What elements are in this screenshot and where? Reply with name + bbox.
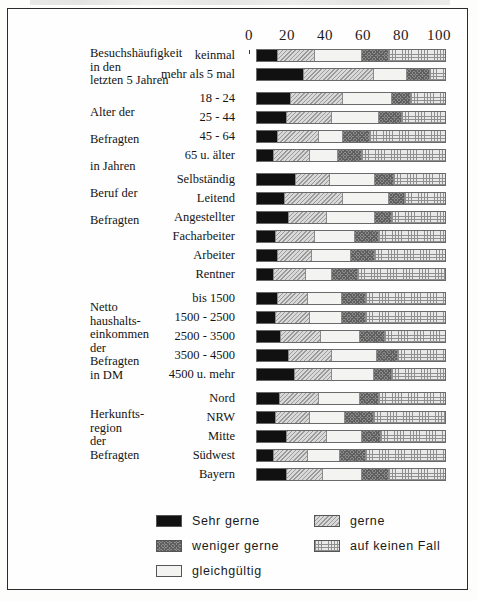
bar-segment-gleichgueltig — [315, 50, 362, 61]
bar-segment-gleichgueltig — [310, 150, 338, 161]
bar-segment-gleichgueltig — [308, 293, 342, 304]
bar-segment-weniger-gerne — [332, 269, 358, 280]
category-label: 2500 - 3500 — [175, 329, 235, 344]
bar-segment-gerne — [287, 469, 323, 480]
bar-segment-auf-keinen-fall — [389, 469, 445, 480]
bar-segment-auf-keinen-fall — [389, 50, 445, 61]
bar-segment-gleichgueltig — [308, 450, 340, 461]
legend-swatch-auf-keinen-fall — [314, 540, 340, 552]
bar-row: Angestellter — [8, 209, 467, 227]
bar-segment-gleichgueltig — [343, 193, 388, 204]
category-label: Bayern — [199, 467, 235, 482]
bar-segment-gleichgueltig — [343, 93, 392, 104]
stacked-bar — [256, 111, 446, 124]
stacked-bar — [256, 449, 446, 462]
category-label: 65 u. älter — [185, 148, 235, 163]
stacked-bar — [256, 230, 446, 243]
bar-row: 65 u. älter — [8, 147, 467, 165]
bar-segment-sehr-gerne — [257, 112, 287, 123]
legend-item-auf-keinen-fall[interactable]: auf keinen Fall — [314, 539, 440, 553]
axis-tick-label: 40 — [317, 27, 333, 44]
stacked-bar — [256, 268, 446, 281]
bar-segment-auf-keinen-fall — [366, 450, 445, 461]
bar-segment-sehr-gerne — [257, 293, 278, 304]
bar-segment-gleichgueltig — [312, 250, 351, 261]
stacked-bar — [256, 192, 446, 205]
bar-segment-gerne — [274, 450, 308, 461]
bar-segment-weniger-gerne — [389, 193, 406, 204]
legend-item-weniger-gerne[interactable]: weniger gerne — [156, 539, 279, 553]
bar-segment-gleichgueltig — [332, 112, 379, 123]
bar-segment-gerne — [276, 312, 310, 323]
category-label: 3500 - 4500 — [175, 348, 235, 363]
bar-segment-auf-keinen-fall — [379, 393, 445, 404]
bar-segment-auf-keinen-fall — [405, 193, 444, 204]
axis-tick-label: 80 — [393, 27, 409, 44]
bar-row: Facharbeiter — [8, 228, 467, 246]
category-label: Angestellter — [174, 210, 235, 225]
category-label: 45 - 64 — [200, 129, 235, 144]
stacked-bar — [256, 311, 446, 324]
bar-row: Nord — [8, 390, 467, 408]
bar-segment-gerne — [276, 412, 310, 423]
stacked-bar — [256, 130, 446, 143]
category-label: mehr als 5 mal — [161, 67, 235, 82]
legend-label: gleichgültig — [192, 564, 262, 578]
bar-segment-gerne — [295, 369, 333, 380]
legend-item-gerne[interactable]: gerne — [314, 514, 385, 528]
bar-segment-weniger-gerne — [351, 250, 375, 261]
bar-row: NRW — [8, 409, 467, 427]
bar-segment-gleichgueltig — [374, 69, 408, 80]
bar-segment-auf-keinen-fall — [366, 312, 445, 323]
bar-segment-weniger-gerne — [362, 469, 388, 480]
axis-tick-label: 0 — [245, 27, 253, 44]
bar-row: Bayern — [8, 466, 467, 484]
bar-segment-weniger-gerne — [379, 112, 402, 123]
stacked-bar — [256, 468, 446, 481]
bar-row: keinmal — [8, 47, 467, 65]
stacked-bar — [256, 292, 446, 305]
category-label: Nord — [209, 391, 235, 406]
bar-row: Südwest — [8, 447, 467, 465]
bar-segment-weniger-gerne — [377, 350, 398, 361]
axis-tick-label: 20 — [279, 27, 295, 44]
legend-item-gleichgueltig[interactable]: gleichgültig — [156, 564, 262, 578]
bar-segment-auf-keinen-fall — [398, 350, 445, 361]
bar-segment-auf-keinen-fall — [430, 69, 445, 80]
bar-row: 18 - 24 — [8, 90, 467, 108]
bar-row: 3500 - 4500 — [8, 347, 467, 365]
bar-segment-gleichgueltig — [330, 174, 375, 185]
bar-segment-auf-keinen-fall — [392, 369, 445, 380]
bar-segment-sehr-gerne — [257, 369, 295, 380]
bar-segment-sehr-gerne — [257, 350, 289, 361]
bar-segment-weniger-gerne — [355, 231, 379, 242]
legend-item-sehr-gerne[interactable]: Sehr gerne — [156, 514, 260, 528]
bar-segment-sehr-gerne — [257, 131, 278, 142]
bar-segment-gleichgueltig — [319, 131, 343, 142]
bar-segment-auf-keinen-fall — [385, 331, 445, 342]
bar-segment-gerne — [278, 50, 316, 61]
bar-segment-auf-keinen-fall — [375, 250, 445, 261]
bar-segment-sehr-gerne — [257, 431, 287, 442]
bar-segment-sehr-gerne — [257, 150, 274, 161]
bar-segment-gerne — [281, 331, 320, 342]
bar-segment-auf-keinen-fall — [402, 112, 445, 123]
bar-row: 45 - 64 — [8, 128, 467, 146]
stacked-bar — [256, 68, 446, 81]
stacked-bar — [256, 173, 446, 186]
bar-segment-auf-keinen-fall — [362, 150, 445, 161]
bar-segment-gerne — [278, 131, 319, 142]
bar-row: Arbeiter — [8, 247, 467, 265]
axis-tick-label: 100 — [427, 27, 451, 44]
stacked-bar — [256, 411, 446, 424]
legend-label: auf keinen Fall — [350, 539, 440, 553]
stacked-bar — [256, 249, 446, 262]
category-label: Rentner — [195, 267, 235, 282]
bar-segment-sehr-gerne — [257, 212, 289, 223]
bar-segment-sehr-gerne — [257, 393, 280, 404]
bar-segment-sehr-gerne — [257, 231, 276, 242]
bar-segment-auf-keinen-fall — [370, 131, 445, 142]
bar-segment-gleichgueltig — [306, 269, 332, 280]
bar-segment-gerne — [289, 212, 327, 223]
bar-segment-gleichgueltig — [327, 212, 376, 223]
